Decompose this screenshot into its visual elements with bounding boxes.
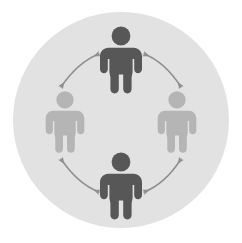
diagram-root: Peer network collaboration diagram <box>0 0 242 243</box>
diagram-canvas <box>0 0 242 243</box>
